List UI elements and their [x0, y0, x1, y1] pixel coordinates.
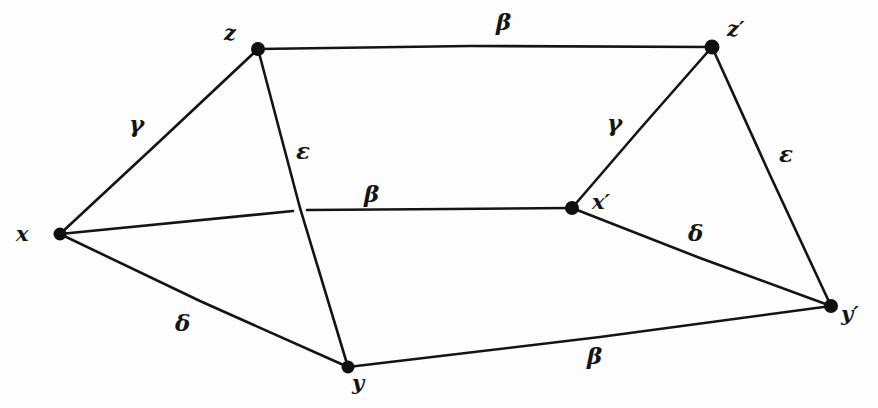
edge-label-x-y: δ [175, 311, 190, 334]
vertex-dot-xprime [565, 201, 579, 215]
edge-label-x-z: γ [129, 112, 144, 135]
edge-xprime-zprime [572, 47, 712, 208]
vertex-dot-z [251, 42, 265, 56]
vertex-label-y: y [352, 372, 364, 393]
edge-x-z [60, 49, 258, 234]
edge-z-y [258, 49, 348, 367]
edge-label-z-y: ε [296, 139, 310, 162]
edge-z-zprime [258, 46, 712, 49]
vertex-label-zprime: z′ [727, 18, 744, 39]
edge-label-zprime-yprime: ε [779, 142, 793, 165]
edge-x-xprime-right [307, 208, 572, 210]
edge-label-z-zprime: β [496, 10, 511, 33]
edge-x-y [60, 234, 348, 367]
graph-diagram-svg [0, 0, 878, 408]
edge-label-xprime-zprime: γ [607, 111, 622, 134]
edge-x-xprime-left [60, 211, 293, 234]
vertex-label-z: z [224, 22, 236, 43]
diagram-canvas: x y z x′ y′ z′ β γ ε β δ β γ ε δ [0, 0, 878, 408]
edge-zprime-yprime [712, 47, 831, 306]
vertex-label-xprime: x′ [592, 191, 610, 212]
vertex-dot-x [54, 228, 67, 241]
edge-label-y-yprime: β [587, 344, 602, 367]
edge-label-x-xprime: β [364, 182, 379, 205]
vertex-label-x: x [16, 223, 29, 244]
vertex-dot-zprime [705, 40, 720, 55]
edge-label-xprime-yprime: δ [688, 221, 703, 244]
vertex-dot-yprime [824, 299, 838, 313]
vertex-label-yprime: y′ [841, 303, 859, 324]
